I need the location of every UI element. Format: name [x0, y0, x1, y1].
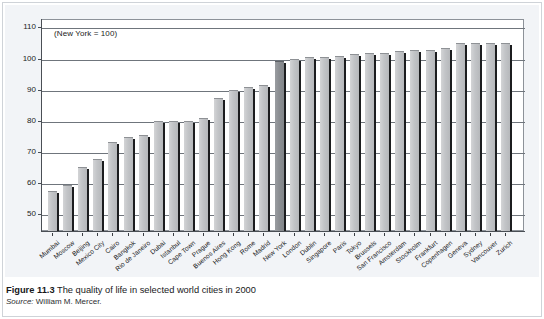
bar-hong-kong	[229, 20, 240, 232]
x-axis-line	[41, 231, 525, 232]
bar-body	[350, 54, 359, 232]
bar-new-york	[275, 20, 286, 232]
x-label-paris: Paris	[331, 239, 347, 254]
x-tick-mark	[128, 233, 129, 236]
x-tick-mark	[263, 233, 264, 236]
figure-title: The quality of life in selected world ci…	[57, 285, 256, 295]
bar-prague	[199, 20, 210, 232]
bar-vancouver	[486, 20, 497, 232]
bar-shadow	[87, 169, 89, 232]
bar-shadow	[72, 187, 74, 232]
bar-shadow	[117, 144, 119, 232]
x-tick-mark	[203, 233, 204, 236]
bar-san-francisco	[380, 20, 391, 232]
x-label-zurich: Zurich	[495, 239, 514, 256]
bar-body	[305, 57, 314, 232]
caption-title-line: Figure 11.3 The quality of life in selec…	[6, 284, 526, 296]
x-axis-category-labels: MumbaiMoscowBeijingMexico CityCairoBangk…	[41, 233, 531, 279]
x-tick-mark	[430, 233, 431, 236]
bar-body	[139, 135, 148, 232]
x-tick-mark	[505, 233, 506, 236]
bar-zurich	[501, 20, 512, 232]
bar-shadow	[208, 120, 210, 232]
bar-shadow	[374, 55, 376, 232]
y-tick-label-80: 80	[10, 117, 36, 125]
bar-body	[471, 43, 480, 232]
figure-number: Figure 11.3	[6, 285, 55, 295]
x-tick-mark	[233, 233, 234, 236]
x-tick-mark	[445, 233, 446, 236]
bar-shadow	[238, 92, 240, 232]
x-tick-mark	[399, 233, 400, 236]
bar-body	[108, 142, 117, 232]
bar-rio-de-janeiro	[139, 20, 150, 232]
bar-amsterdam	[395, 20, 406, 232]
bar-tokyo	[350, 20, 361, 232]
y-tick-label-110: 110	[10, 23, 36, 31]
x-tick-mark	[324, 233, 325, 236]
x-tick-mark	[294, 233, 295, 236]
x-tick-mark	[309, 233, 310, 236]
x-tick-mark	[112, 233, 113, 236]
bar-shadow	[314, 59, 316, 232]
bar-body	[244, 87, 253, 232]
bar-cape-town	[184, 20, 195, 232]
bar-shadow	[435, 52, 437, 232]
bar-buenos-aires	[214, 20, 225, 232]
bar-body	[275, 61, 284, 232]
bar-shadow	[495, 45, 497, 232]
bar-moscow	[63, 20, 74, 232]
bar-shadow	[344, 58, 346, 232]
bar-body	[63, 185, 72, 232]
bar-brussels	[365, 20, 376, 232]
bar-body	[169, 121, 178, 232]
x-tick-mark	[369, 233, 370, 236]
bar-shadow	[419, 52, 421, 232]
bar-shadow	[389, 55, 391, 232]
bar-shadow	[223, 100, 225, 232]
y-tick-label-50: 50	[10, 210, 36, 218]
bar-body	[441, 48, 450, 232]
scanned-figure-page: (New York = 100) 5060708090100110 Mumbai…	[0, 0, 544, 319]
bar-shadow	[148, 137, 150, 232]
bar-london	[290, 20, 301, 232]
x-tick-mark	[354, 233, 355, 236]
bar-rome	[244, 20, 255, 232]
bar-body	[154, 121, 163, 232]
bar-body	[214, 98, 223, 232]
bar-body	[456, 43, 465, 232]
x-tick-mark	[82, 233, 83, 236]
bar-body	[124, 137, 133, 232]
bar-shadow	[480, 45, 482, 232]
bar-body	[229, 90, 238, 232]
x-tick-mark	[490, 233, 491, 236]
bar-shadow	[284, 63, 286, 232]
bar-singapore	[320, 20, 331, 232]
bar-mexico-city	[93, 20, 104, 232]
bar-shadow	[268, 87, 270, 232]
bar-stockholm	[410, 20, 421, 232]
x-tick-mark	[384, 233, 385, 236]
bar-body	[486, 43, 495, 232]
bar-copenhagen	[441, 20, 452, 232]
bar-madrid	[259, 20, 270, 232]
y-tick-label-100: 100	[10, 55, 36, 63]
x-tick-mark	[414, 233, 415, 236]
bar-cairo	[108, 20, 119, 232]
bar-body	[199, 118, 208, 232]
bar-shadow	[299, 61, 301, 232]
x-tick-mark	[248, 233, 249, 236]
bar-body	[426, 50, 435, 232]
bar-series	[41, 19, 524, 232]
bar-beijing	[78, 20, 89, 232]
bar-body	[184, 121, 193, 232]
bar-shadow	[57, 193, 59, 232]
bar-shadow	[253, 89, 255, 232]
bar-dublin	[305, 20, 316, 232]
x-tick-mark	[188, 233, 189, 236]
bar-body	[93, 159, 102, 232]
bar-paris	[335, 20, 346, 232]
bar-shadow	[102, 161, 104, 232]
bar-body	[335, 56, 344, 232]
bar-shadow	[178, 123, 180, 232]
